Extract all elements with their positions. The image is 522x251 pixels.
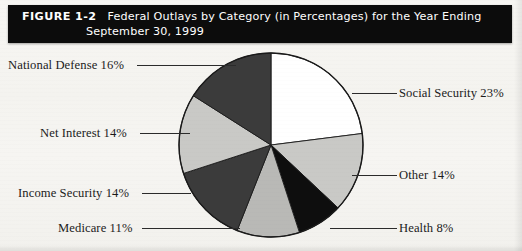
figure-title-main: Federal Outlays by Category (in Percenta… xyxy=(107,10,481,23)
pie-label-medicare: Medicare 11% xyxy=(58,221,133,236)
pie-label-national-defense: National Defense 16% xyxy=(8,58,124,73)
page-edge-shadow-bottom xyxy=(0,245,522,251)
pie-label-net-interest: Net Interest 14% xyxy=(40,126,127,141)
figure-title-text-block: FIGURE 1-2Federal Outlays by Category (i… xyxy=(22,10,504,39)
figure-root: FIGURE 1-2Federal Outlays by Category (i… xyxy=(0,0,522,251)
leader-line-national-defense xyxy=(137,65,236,66)
pie-label-income-security: Income Security 14% xyxy=(18,186,129,201)
figure-title-line-2: September 30, 1999 xyxy=(22,25,504,40)
figure-title-line-1: FIGURE 1-2Federal Outlays by Category (i… xyxy=(22,10,504,25)
pie-slice-social-security xyxy=(271,53,362,145)
figure-number-label: FIGURE 1-2 xyxy=(22,10,96,23)
pie-label-health: Health 8% xyxy=(399,221,453,236)
pie-slice-group xyxy=(179,53,363,237)
leader-line-net-interest xyxy=(140,133,190,134)
pie-chart xyxy=(177,50,365,240)
pie-label-social-security: Social Security 23% xyxy=(399,86,504,101)
leader-line-medicare xyxy=(142,228,240,229)
pie-label-other: Other 14% xyxy=(399,168,455,183)
leader-line-social-security xyxy=(352,93,397,94)
leader-line-other xyxy=(352,175,397,176)
leader-line-income-security xyxy=(142,193,191,194)
page-edge-shadow-right xyxy=(514,0,522,251)
leader-line-health xyxy=(330,228,397,229)
figure-title-bar: FIGURE 1-2Federal Outlays by Category (i… xyxy=(8,5,512,43)
pie-chart-svg xyxy=(177,50,365,240)
